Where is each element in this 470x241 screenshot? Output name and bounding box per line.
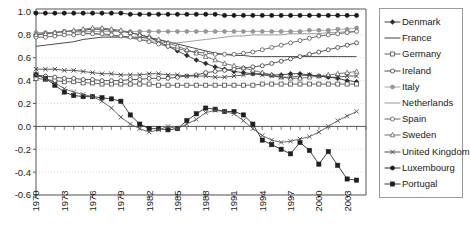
legend-label: Ireland [402, 66, 431, 76]
circle-open-icon [383, 64, 402, 78]
legend-label: Portugal [402, 179, 437, 189]
legend-label: Spain [402, 114, 426, 124]
svg-text:1970: 1970 [30, 190, 41, 211]
legend-item-denmark[interactable]: Denmark [383, 14, 459, 30]
legend-item-italy[interactable]: Italy [383, 79, 459, 95]
svg-text:1979: 1979 [115, 190, 126, 211]
svg-text:0.8: 0.8 [18, 29, 31, 40]
legend-item-united-kingdom[interactable]: United Kingdom [383, 144, 459, 160]
svg-text:-0.2: -0.2 [15, 144, 31, 155]
none-gray-icon [383, 96, 402, 110]
svg-text:1982: 1982 [144, 190, 155, 211]
svg-text:0.4: 0.4 [18, 75, 31, 86]
svg-text:2003: 2003 [342, 190, 353, 211]
svg-text:0.2: 0.2 [18, 98, 31, 109]
svg-text:1994: 1994 [257, 190, 268, 211]
legend-item-france[interactable]: France [383, 30, 459, 46]
circle-open2-icon [383, 112, 402, 126]
legend-item-netherlands[interactable]: Netherlands [383, 95, 459, 111]
svg-text:-0.4: -0.4 [15, 167, 31, 178]
svg-text:0.6: 0.6 [18, 52, 31, 63]
triangle-open-icon [383, 128, 402, 142]
legend-item-spain[interactable]: Spain [383, 111, 459, 127]
square-filled-icon [383, 177, 402, 191]
legend-item-luxembourg[interactable]: Luxembourg [383, 160, 459, 176]
svg-text:0.0: 0.0 [18, 121, 31, 132]
x-cross-icon [383, 145, 402, 159]
legend-label: Luxembourg [402, 163, 455, 173]
line-chart-svg: 1.00.80.60.40.20.0-0.2-0.4-0.61970197319… [0, 0, 372, 241]
legend-label: Germany [402, 49, 441, 59]
legend-label: France [402, 33, 432, 43]
square-open-icon [383, 47, 402, 61]
chart-plot-area: 1.00.80.60.40.20.0-0.2-0.4-0.61970197319… [0, 0, 372, 241]
svg-text:1976: 1976 [87, 190, 98, 211]
legend-item-sweden[interactable]: Sweden [383, 127, 459, 143]
none-icon [383, 31, 402, 45]
circle-filled-icon [383, 161, 402, 175]
svg-text:-0.6: -0.6 [15, 189, 31, 200]
svg-text:2000: 2000 [313, 190, 324, 211]
legend-label: Netherlands [402, 98, 453, 108]
svg-text:1973: 1973 [59, 190, 70, 211]
legend-label: United Kingdom [402, 147, 470, 157]
svg-text:1991: 1991 [228, 190, 239, 211]
legend-item-germany[interactable]: Germany [383, 46, 459, 62]
svg-text:1.0: 1.0 [18, 6, 31, 17]
legend-label: Italy [402, 82, 419, 92]
legend-item-ireland[interactable]: Ireland [383, 63, 459, 79]
diamond-filled-icon [383, 15, 402, 29]
chart-legend: DenmarkFranceGermanyIrelandItalyNetherla… [379, 8, 463, 198]
legend-label: Sweden [402, 130, 436, 140]
svg-text:1997: 1997 [285, 190, 296, 211]
svg-text:1988: 1988 [200, 190, 211, 211]
legend-label: Denmark [402, 17, 441, 27]
circle-filled-gray-icon [383, 80, 402, 94]
legend-item-portugal[interactable]: Portugal [383, 176, 459, 192]
svg-text:1985: 1985 [172, 190, 183, 211]
